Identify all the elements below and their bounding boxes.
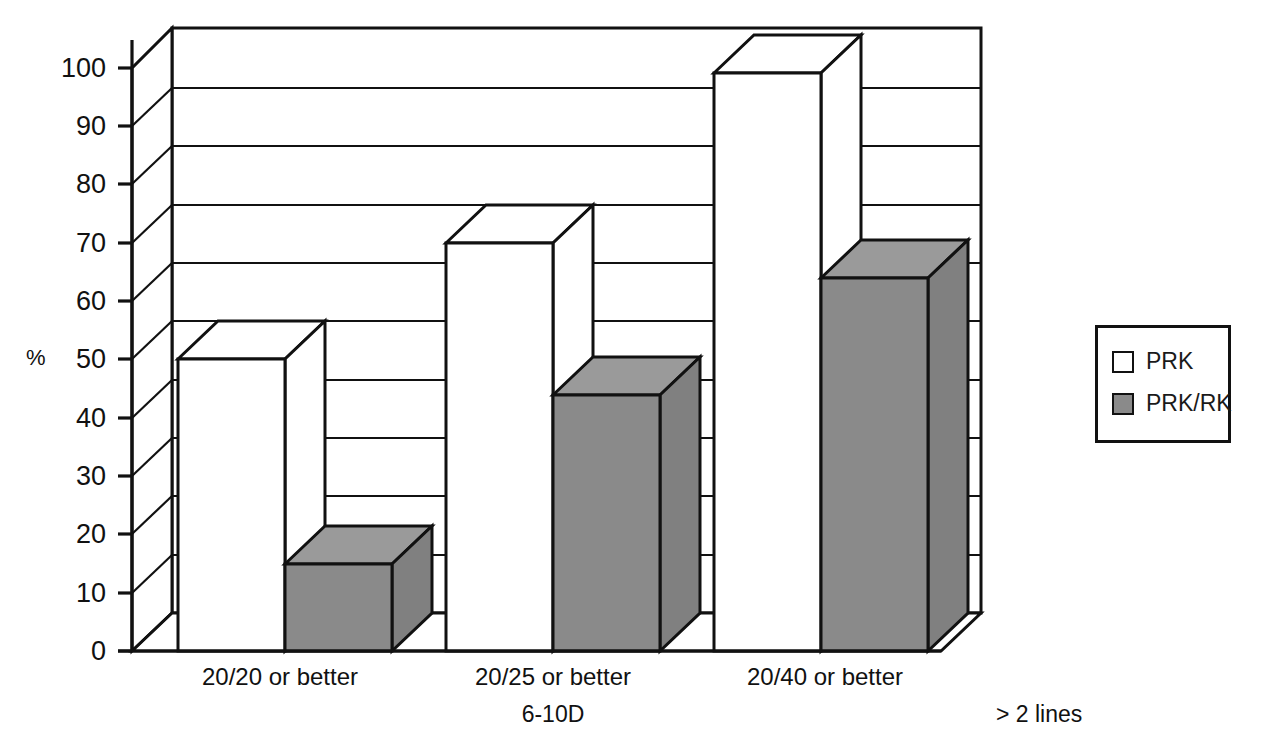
chart-canvas: 100 90 80 70 60 50 40 30 20 10 0 % 20/20… <box>0 0 1267 752</box>
bar-chart-3d <box>0 0 1267 752</box>
x-category-label-1: 20/20 or better <box>155 663 405 691</box>
y-tick-100: 100 <box>40 53 106 84</box>
bar-prkrk-20-25 <box>553 357 700 651</box>
bar-prkrk-20-40 <box>821 240 968 651</box>
y-axis <box>118 40 132 651</box>
y-tick-80: 80 <box>40 169 106 200</box>
y-tick-20: 20 <box>40 519 106 550</box>
x-category-label-3: 20/40 or better <box>700 663 950 691</box>
legend-label-prkrk: PRK/RK <box>1146 392 1232 415</box>
y-tick-40: 40 <box>40 403 106 434</box>
y-tick-30: 30 <box>40 461 106 492</box>
x-category-label-2: 20/25 or better <box>428 663 678 691</box>
y-tick-50: 50 <box>40 344 106 375</box>
y-tick-10: 10 <box>40 578 106 609</box>
y-tick-70: 70 <box>40 228 106 259</box>
legend-swatch-prkrk <box>1112 393 1134 415</box>
x-axis-sublabel: 6-10D <box>428 701 678 728</box>
bar-prkrk-20-20 <box>285 526 432 651</box>
y-axis-label: % <box>26 345 46 371</box>
chart-legend: PRK PRK/RK <box>1095 325 1231 443</box>
footnote-more-than-2-lines: > 2 lines <box>996 701 1082 728</box>
legend-item-prk[interactable]: PRK <box>1112 350 1193 373</box>
y-tick-90: 90 <box>40 111 106 142</box>
y-tick-0: 0 <box>40 636 106 667</box>
legend-label-prk: PRK <box>1146 350 1193 373</box>
legend-item-prkrk[interactable]: PRK/RK <box>1112 392 1232 415</box>
y-tick-60: 60 <box>40 286 106 317</box>
legend-swatch-prk <box>1112 351 1134 373</box>
